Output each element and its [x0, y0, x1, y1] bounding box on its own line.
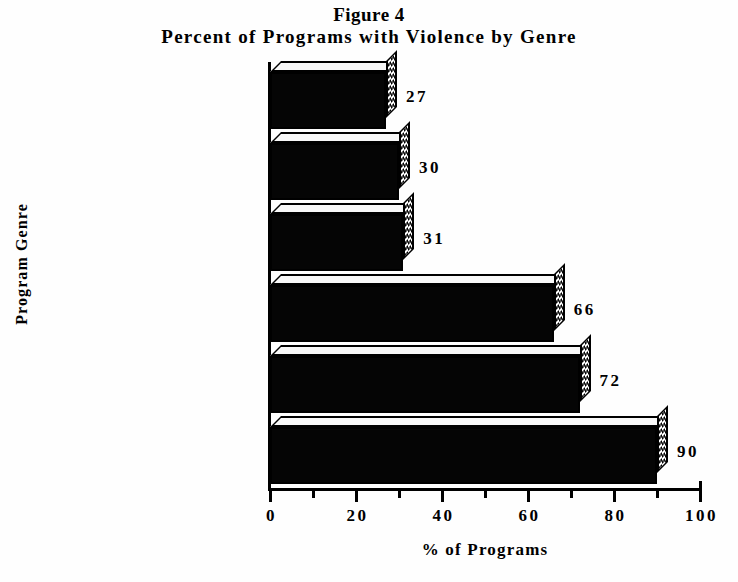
bar-side-face: [554, 263, 565, 331]
bar-side-face: [657, 405, 668, 473]
x-tick-label: 20: [347, 506, 369, 526]
bar-front-face: [270, 143, 399, 200]
bar-value-label: 30: [419, 158, 441, 178]
bar-front-face: [270, 72, 386, 129]
x-tick-major: [355, 491, 358, 502]
bar-front-face: [270, 356, 580, 413]
x-tick-major: [269, 491, 272, 502]
x-tick-minor: [484, 491, 487, 498]
bar-value-label: 66: [574, 300, 596, 320]
bar-side-face: [386, 50, 397, 118]
x-tick-minor: [398, 491, 401, 498]
bar-side-face: [580, 334, 591, 402]
bar-value-label: 90: [677, 442, 699, 462]
bar-front-face: [270, 427, 657, 484]
bar-top-face: [270, 61, 397, 72]
x-tick-minor: [312, 491, 315, 498]
bar-side-face: [403, 192, 414, 260]
x-tick-major: [613, 491, 616, 502]
bar-top-face: [270, 416, 668, 427]
x-tick-major: [441, 491, 444, 502]
bar-top-face: [270, 274, 565, 285]
figure-number: Figure 4: [0, 4, 738, 26]
bar-value-label: 27: [406, 87, 428, 107]
x-tick-major: [527, 491, 530, 502]
x-tick-minor: [570, 491, 573, 498]
x-tick-minor: [656, 491, 659, 498]
figure-chart: Figure 4 Percent of Programs with Violen…: [0, 0, 738, 582]
bar-top-face: [270, 345, 591, 356]
bar-value-label: 72: [600, 371, 622, 391]
bar-front-face: [270, 285, 554, 342]
x-axis-title: % of Programs: [270, 540, 700, 560]
x-tick-label: 40: [433, 506, 455, 526]
bar-side-face: [399, 121, 410, 189]
bar-top-face: [270, 132, 410, 143]
x-axis-cap-right: [699, 481, 702, 489]
chart-title-block: Figure 4 Percent of Programs with Violen…: [0, 4, 738, 49]
y-axis-title: Program Genre: [13, 164, 31, 364]
x-tick-label: 100: [685, 506, 718, 526]
bar-front-face: [270, 214, 403, 271]
x-tick-major: [699, 491, 702, 502]
x-tick-label: 0: [266, 506, 277, 526]
x-tick-label: 60: [519, 506, 541, 526]
plot-area: 020406080100 273031667290 Comedy SeriesR…: [270, 62, 700, 488]
x-tick-label: 80: [605, 506, 627, 526]
bar-value-label: 31: [423, 229, 445, 249]
chart-subtitle: Percent of Programs with Violence by Gen…: [0, 26, 738, 48]
bar-top-face: [270, 203, 414, 214]
